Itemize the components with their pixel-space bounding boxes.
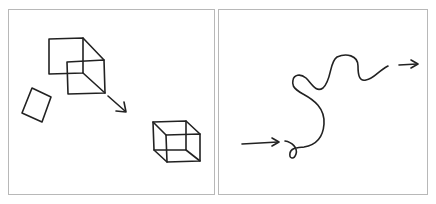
wavy-path [285, 55, 388, 158]
drawing-canvas [0, 0, 436, 204]
tilted-square-icon [22, 88, 51, 122]
arrow-down-right-icon [108, 96, 126, 112]
entry-arrow-icon [242, 138, 279, 146]
exit-arrow-icon [399, 60, 418, 68]
wireframe-cube-icon [153, 121, 200, 162]
wireframe-cube-pair-icon [49, 38, 105, 94]
